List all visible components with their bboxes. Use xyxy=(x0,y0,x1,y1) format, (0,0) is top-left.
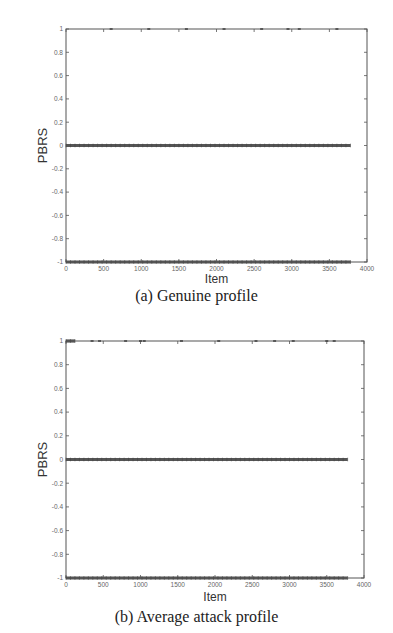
y-tick-label: -0.6 xyxy=(52,527,64,534)
x-tick-label: 500 xyxy=(98,265,109,272)
x-tick-label: 3500 xyxy=(322,265,337,272)
x-tick-label: 2000 xyxy=(209,265,224,272)
y-tick-label: 0.4 xyxy=(54,408,63,415)
y-tick-label: 0 xyxy=(59,142,63,149)
y-tick-label: 0.8 xyxy=(54,361,63,368)
chart-b-plot: 10.80.60.40.20-0.2-0.4-0.6-0.8-105001000… xyxy=(0,318,393,633)
y-tick-label: -0.6 xyxy=(52,212,64,219)
y-tick-label: -0.8 xyxy=(52,551,64,558)
y-tick-label: 0.6 xyxy=(54,72,63,79)
y-tick-label: -1 xyxy=(57,258,63,265)
y-tick-label: 0.8 xyxy=(54,49,63,56)
x-tick-label: 2500 xyxy=(247,265,262,272)
chart-a-plot: 10.80.60.40.20-0.2-0.4-0.6-0.8-105001000… xyxy=(0,0,393,318)
y-tick-label: 0.2 xyxy=(54,432,63,439)
x-tick-label: 1500 xyxy=(171,581,186,588)
x-tick-label: 3000 xyxy=(282,581,297,588)
x-tick-label: 2000 xyxy=(208,581,223,588)
figure-a-caption: (a) Genuine profile xyxy=(0,287,393,305)
y-tick-label: -0.4 xyxy=(52,503,64,510)
y-tick-label: 0.6 xyxy=(54,385,63,392)
x-tick-label: 1000 xyxy=(134,265,149,272)
figure-a-genuine-profile: 10.80.60.40.20-0.2-0.4-0.6-0.8-105001000… xyxy=(0,0,393,318)
x-tick-label: 1000 xyxy=(133,581,148,588)
y-tick-label: 0.2 xyxy=(54,119,63,126)
chart-b-xlabel: Item xyxy=(66,590,364,604)
y-tick-label: -1 xyxy=(57,574,63,581)
y-tick-label: -0.2 xyxy=(52,480,64,487)
x-tick-label: 500 xyxy=(98,581,109,588)
chart-b-ylabel: PBRS xyxy=(35,440,50,480)
x-tick-label: 3500 xyxy=(320,581,335,588)
x-tick-label: 2500 xyxy=(245,581,260,588)
x-tick-label: 3000 xyxy=(285,265,300,272)
y-tick-label: -0.8 xyxy=(52,235,64,242)
y-tick-label: 0.4 xyxy=(54,95,63,102)
x-tick-label: 1500 xyxy=(172,265,187,272)
chart-a-ylabel: PBRS xyxy=(35,126,50,166)
figure-b-average-attack-profile: 10.80.60.40.20-0.2-0.4-0.6-0.8-105001000… xyxy=(0,318,393,633)
y-tick-label: 1 xyxy=(59,25,63,32)
chart-a-xlabel: Item xyxy=(66,272,367,286)
y-tick-label: -0.4 xyxy=(52,188,64,195)
y-tick-label: -0.2 xyxy=(52,165,64,172)
figure-b-caption: (b) Average attack profile xyxy=(0,608,393,626)
x-tick-label: 0 xyxy=(64,581,68,588)
y-tick-label: 1 xyxy=(59,337,63,344)
x-tick-label: 4000 xyxy=(360,265,375,272)
x-tick-label: 0 xyxy=(64,265,68,272)
y-tick-label: 0 xyxy=(59,456,63,463)
x-tick-label: 4000 xyxy=(357,581,372,588)
